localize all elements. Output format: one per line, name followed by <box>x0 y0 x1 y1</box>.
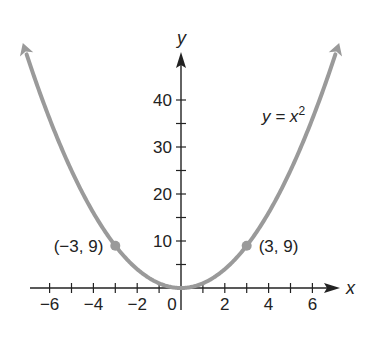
x-tick-label: 6 <box>308 295 317 314</box>
y-tick-label: 30 <box>153 138 172 157</box>
parabola-chart: −6−4−2024610203040xyy = x2(−3, 9)(3, 9) <box>0 0 374 339</box>
point-label: (3, 9) <box>259 237 299 256</box>
y-tick-label: 40 <box>153 91 172 110</box>
y-tick-label: 10 <box>153 232 172 251</box>
y-tick-label: 20 <box>153 185 172 204</box>
chart-labels: −6−4−2024610203040xyy = x2(−3, 9)(3, 9) <box>40 28 356 314</box>
x-tick-label: 0 <box>167 295 176 314</box>
x-tick-label: 4 <box>264 295 273 314</box>
x-tick-label: −2 <box>128 295 147 314</box>
equation-label: y = x2 <box>261 104 305 126</box>
x-tick-label: −4 <box>84 295 103 314</box>
x-axis-label: x <box>345 278 356 298</box>
y-axis-label: y <box>175 28 187 48</box>
x-tick-label: −6 <box>40 295 59 314</box>
point-label: (−3, 9) <box>54 237 104 256</box>
point-marker <box>110 241 120 251</box>
point-marker <box>242 241 252 251</box>
x-tick-label: 2 <box>220 295 229 314</box>
